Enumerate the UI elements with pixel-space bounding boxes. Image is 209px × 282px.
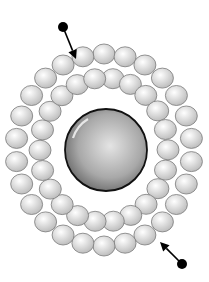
bead: [147, 101, 169, 121]
bead: [151, 212, 173, 232]
bead: [175, 106, 197, 126]
bead: [52, 55, 74, 75]
bead: [165, 195, 187, 215]
bead: [180, 152, 202, 172]
bead: [21, 195, 43, 215]
bead: [154, 120, 176, 140]
bead: [11, 106, 33, 126]
bead: [134, 225, 156, 245]
bead: [134, 55, 156, 75]
bead: [52, 225, 74, 245]
bead: [6, 152, 28, 172]
core-sphere-body: [65, 109, 147, 191]
bead: [165, 86, 187, 106]
bead: [11, 174, 33, 194]
bead: [93, 236, 115, 256]
bead: [93, 44, 115, 64]
bead: [32, 120, 54, 140]
bead: [72, 233, 94, 253]
bead: [114, 47, 136, 67]
arrow-ball: [177, 259, 187, 269]
incoming-arrow-top: [58, 22, 77, 59]
bead: [39, 179, 61, 199]
arrow-ball: [58, 22, 68, 32]
bead: [175, 174, 197, 194]
bead-ring-diagram: [0, 0, 209, 282]
diagram-canvas: [0, 0, 209, 282]
bead: [151, 68, 173, 88]
bead: [35, 212, 57, 232]
bead: [21, 86, 43, 106]
bead: [114, 233, 136, 253]
bead: [32, 161, 54, 181]
central-sphere: [65, 109, 147, 191]
bead: [180, 128, 202, 148]
bead: [35, 68, 57, 88]
bead: [84, 69, 106, 89]
bead: [155, 160, 177, 180]
bead: [157, 140, 179, 160]
bead: [29, 140, 51, 160]
bead: [6, 128, 28, 148]
incoming-arrow-bottom: [160, 242, 187, 269]
